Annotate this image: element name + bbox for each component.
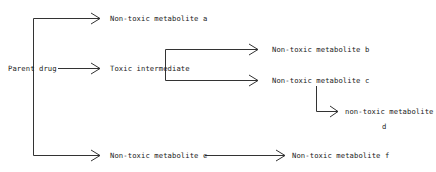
node-metabolite-c: Non-toxic metabolite c bbox=[272, 76, 369, 85]
node-metabolite-a: Non-toxic metabolite a bbox=[110, 14, 207, 23]
node-metabolite-b: Non-toxic metabolite b bbox=[272, 45, 369, 54]
node-metabolite-f: Non-toxic metabolite f bbox=[292, 151, 389, 160]
node-metabolite-e: Non-toxic metabolite e bbox=[110, 151, 207, 160]
node-metabolite-d: non-toxic metabolite bbox=[345, 107, 434, 116]
metabolism-diagram: Parent drug Non-toxic metabolite a Toxic… bbox=[0, 0, 436, 172]
edge-c-to-d bbox=[317, 86, 339, 112]
node-parent-drug: Parent drug bbox=[8, 64, 57, 73]
node-toxic-intermediate: Toxic intermediate bbox=[110, 64, 190, 73]
node-metabolite-d-suffix: d bbox=[382, 122, 386, 131]
connector-lines bbox=[0, 0, 436, 172]
